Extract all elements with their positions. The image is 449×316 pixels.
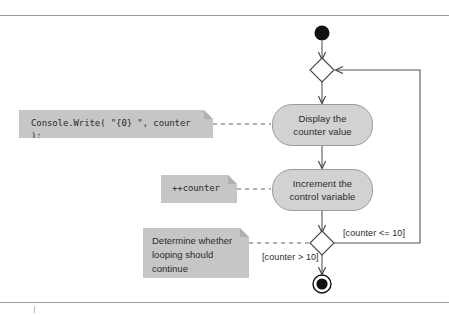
note-determine-looping[interactable]: Determine whether looping should continu… xyxy=(143,228,249,278)
note-increment-counter[interactable]: ++counter xyxy=(161,175,237,203)
note-increment-counter-text: ++counter xyxy=(172,182,227,195)
guard-label-exit: [counter > 10] xyxy=(262,252,319,262)
action-display-counter[interactable]: Display the counter value xyxy=(272,104,373,146)
final-node-core xyxy=(316,278,327,289)
note-console-write[interactable]: Console.Write( "{0} ", counter ); xyxy=(19,110,213,138)
activity-diagram-page: Display the counter value Increment the … xyxy=(0,0,449,316)
action-display-counter-label: Display the counter value xyxy=(293,112,351,138)
edge-loop-back xyxy=(334,70,420,243)
note-determine-looping-text: Determine whether looping should continu… xyxy=(152,234,240,276)
guard-label-loop-back: [counter <= 10] xyxy=(343,228,405,238)
initial-node xyxy=(315,26,330,41)
action-increment-control-variable-label: Increment the control variable xyxy=(289,177,355,203)
merge-node xyxy=(310,58,334,82)
action-increment-control-variable[interactable]: Increment the control variable xyxy=(272,169,373,211)
